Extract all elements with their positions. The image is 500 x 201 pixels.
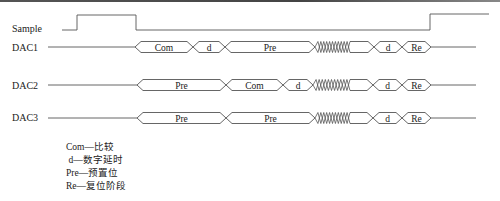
signal-label-sample: Sample	[12, 23, 43, 34]
legend-item-com: Com—比较	[66, 141, 126, 154]
segment-label: Com	[245, 81, 264, 91]
segment-label: Com	[155, 43, 174, 53]
segment-label: Re	[411, 43, 422, 53]
bus-segment	[350, 80, 373, 91]
segment-label: Pre	[264, 43, 277, 53]
legend-item-pre: Pre—预置位	[66, 167, 126, 180]
segment-label: d	[385, 114, 390, 124]
legend-item-d: d—数字延时	[66, 154, 126, 167]
bus-segment	[350, 113, 373, 124]
segment-label: Re	[411, 114, 422, 124]
signal-label-dac2: DAC2	[12, 80, 38, 91]
signal-label-dac3: DAC3	[12, 112, 38, 123]
dac1-bus-waveform: ComdPredRe	[48, 42, 476, 53]
segment-label: d	[296, 81, 301, 91]
segment-label: Pre	[175, 81, 188, 91]
sample-waveform	[62, 14, 489, 30]
segment-label: d	[386, 43, 391, 53]
bus-segment	[350, 42, 374, 53]
legend-item-re: Re—复位阶段	[66, 180, 126, 193]
dac3-bus-waveform: PrePredRe	[48, 113, 476, 124]
segment-label: Re	[411, 81, 422, 91]
legend: Com—比较 d—数字延时 Pre—预置位 Re—复位阶段	[66, 141, 126, 193]
signal-label-dac1: DAC1	[12, 42, 38, 53]
segment-label: Pre	[264, 114, 277, 124]
segment-label: Pre	[175, 114, 188, 124]
signal-labels: Sample DAC1 DAC2 DAC3	[12, 23, 43, 123]
segment-label: d	[207, 43, 212, 53]
dac2-bus-waveform: PreComddRe	[48, 80, 476, 91]
segment-label: d	[385, 81, 390, 91]
